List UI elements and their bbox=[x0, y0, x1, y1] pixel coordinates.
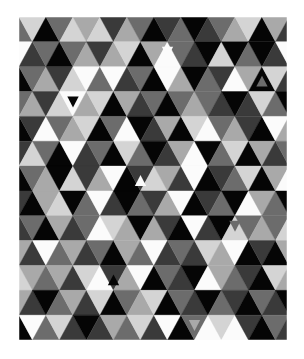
mosaic-canvas bbox=[19, 17, 287, 340]
triangle-mosaic bbox=[19, 17, 287, 340]
